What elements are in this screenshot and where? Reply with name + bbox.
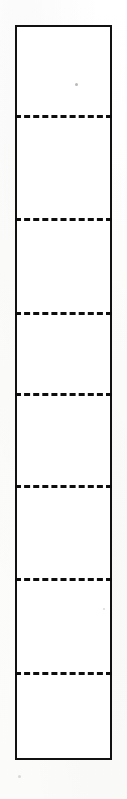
cell-divider (15, 485, 112, 488)
figure-canvas (0, 0, 127, 799)
scan-speck-icon (18, 775, 21, 778)
cell-divider (15, 393, 112, 396)
scan-speck-icon (75, 83, 78, 86)
cell-divider (15, 218, 112, 221)
cell-divider (15, 115, 112, 118)
cell-divider (15, 672, 112, 675)
cell-divider (15, 578, 112, 581)
scan-speck-icon (103, 608, 105, 610)
cell-divider (15, 312, 112, 315)
